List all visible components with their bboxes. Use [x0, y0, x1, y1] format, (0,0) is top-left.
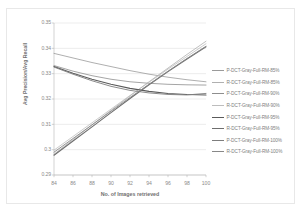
x-axis-tick-label: 90 — [102, 181, 120, 186]
legend-label: P-DCT-Gray-Full-RM-100% — [227, 138, 282, 143]
chart-legend: P-DCT-Gray-Full-RM-85%R-DCT-Gray-Full-RM… — [212, 65, 296, 158]
legend-label: R-DCT-Gray-Full-RM-90% — [227, 103, 280, 108]
series-line — [54, 47, 206, 155]
legend-item[interactable]: P-DCT-Gray-Full-RM-95% — [212, 111, 296, 123]
y-axis-title: Avg Precision/Avg Recall — [22, 26, 28, 122]
x-axis-tick-label: 96 — [159, 181, 177, 186]
y-axis-tick-label: 0.32 — [27, 96, 51, 101]
x-axis-tick-label: 88 — [83, 181, 101, 186]
x-axis-tick-label: 98 — [178, 181, 196, 186]
legend-label: P-DCT-Gray-Full-RM-90% — [227, 91, 280, 96]
legend-item[interactable]: R-DCT-Gray-Full-RM-100% — [212, 146, 296, 158]
series-line — [54, 46, 206, 152]
legend-swatch — [212, 151, 224, 152]
legend-swatch — [212, 82, 224, 83]
legend-swatch — [212, 128, 224, 129]
x-axis-tick-label: 94 — [140, 181, 158, 186]
legend-label: R-DCT-Gray-Full-RM-100% — [227, 149, 283, 154]
plot-area — [54, 23, 206, 175]
x-axis-tick-label: 84 — [45, 181, 63, 186]
y-axis-tick-label: 0.35 — [27, 20, 51, 25]
y-axis-tick-label: 0.34 — [27, 46, 51, 51]
legend-item[interactable]: P-DCT-Gray-Full-RM-100% — [212, 135, 296, 147]
legend-item[interactable]: P-DCT-Gray-Full-RM-90% — [212, 88, 296, 100]
y-axis-tick-label: 0.33 — [27, 71, 51, 76]
legend-swatch — [212, 117, 224, 118]
legend-swatch — [212, 105, 224, 106]
legend-swatch — [212, 70, 224, 71]
chart-container: 0.350.340.330.320.310.30.29 Avg Precisio… — [6, 8, 295, 204]
legend-item[interactable]: R-DCT-Gray-Full-RM-95% — [212, 123, 296, 135]
y-axis-tick-label: 0.29 — [27, 172, 51, 177]
series-line — [54, 53, 206, 81]
x-axis-tick-labels: 8486889092949698100 — [54, 181, 206, 189]
legend-swatch — [212, 140, 224, 141]
y-axis-tick-labels: 0.350.340.330.320.310.30.29 — [25, 23, 51, 175]
y-axis-tick-label: 0.31 — [27, 122, 51, 127]
legend-item[interactable]: R-DCT-Gray-Full-RM-85% — [212, 77, 296, 89]
legend-label: R-DCT-Gray-Full-RM-85% — [227, 80, 280, 85]
x-axis-title: No. of Images retrieved — [54, 191, 206, 197]
y-axis-tick-label: 0.3 — [27, 147, 51, 152]
legend-swatch — [212, 93, 224, 94]
x-axis-tick-label: 92 — [121, 181, 139, 186]
series-line — [54, 67, 206, 95]
legend-item[interactable]: R-DCT-Gray-Full-RM-90% — [212, 100, 296, 112]
legend-label: R-DCT-Gray-Full-RM-95% — [227, 126, 280, 131]
legend-label: P-DCT-Gray-Full-RM-95% — [227, 115, 280, 120]
x-axis-tick-label: 86 — [64, 181, 82, 186]
plot-svg — [54, 23, 206, 175]
x-axis-tick-label: 100 — [197, 181, 215, 186]
legend-item[interactable]: P-DCT-Gray-Full-RM-85% — [212, 65, 296, 77]
legend-label: P-DCT-Gray-Full-RM-85% — [227, 68, 280, 73]
